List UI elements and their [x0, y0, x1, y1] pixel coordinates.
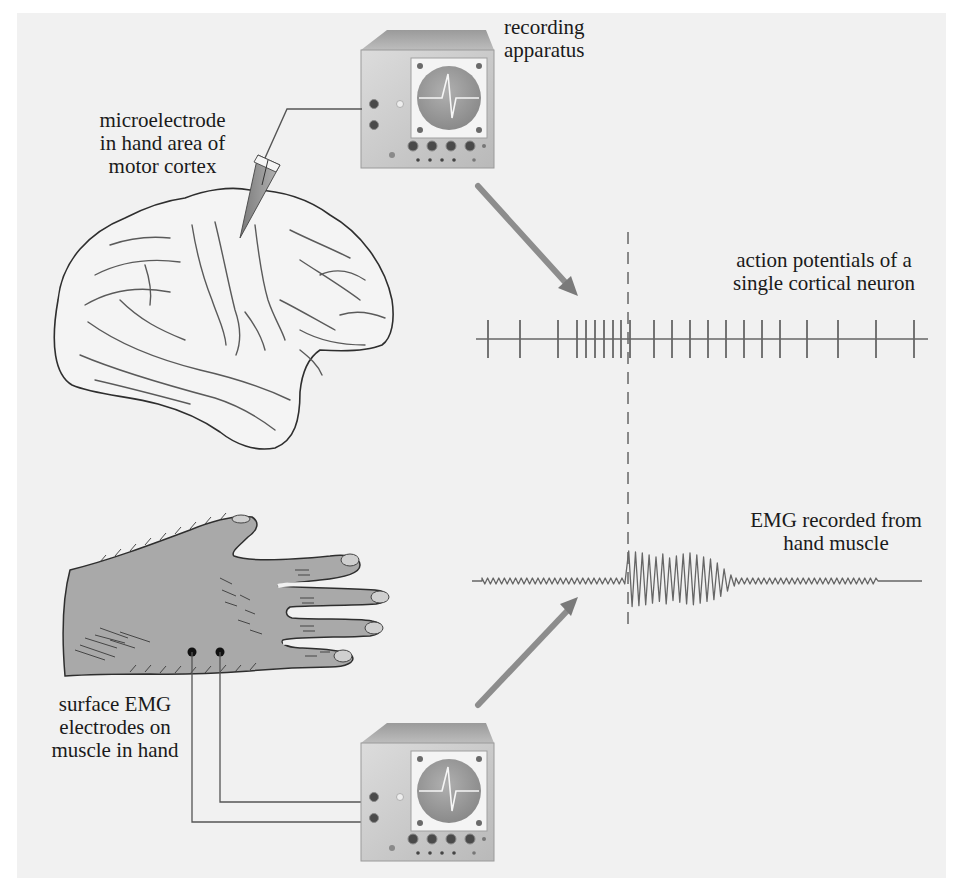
label-line: single cortical neuron [714, 272, 934, 295]
emg-trace [472, 551, 922, 607]
brain-illustration [54, 188, 393, 449]
label-line: surface EMG [40, 693, 190, 716]
label-microelectrode: microelectrode in hand area of motor cor… [80, 109, 245, 178]
emg-wire-1 [192, 652, 364, 822]
label-line: recording [504, 16, 584, 39]
recording-apparatus-top [361, 30, 494, 168]
action-potential-trace [476, 320, 928, 358]
label-line: in hand area of [80, 132, 245, 155]
arrow-apparatus-to-emg [478, 597, 578, 705]
label-line: apparatus [504, 39, 584, 62]
hand-illustration [63, 513, 389, 676]
label-surface-emg: surface EMG electrodes on muscle in hand [40, 693, 190, 762]
emg-wire-2 [220, 652, 364, 802]
label-line: action potentials of a [714, 249, 934, 272]
label-line: muscle in hand [40, 739, 190, 762]
label-line: hand muscle [736, 532, 936, 555]
label-emg-recorded: EMG recorded from hand muscle [736, 509, 936, 555]
label-action-potentials: action potentials of a single cortical n… [714, 249, 934, 295]
electrode-wire [265, 109, 362, 158]
label-line: microelectrode [80, 109, 245, 132]
label-line: electrodes on [40, 716, 190, 739]
label-recording-apparatus: recording apparatus [504, 16, 584, 62]
label-line: motor cortex [80, 155, 245, 178]
label-line: EMG recorded from [736, 509, 936, 532]
recording-apparatus-bottom [361, 723, 494, 861]
arrow-apparatus-to-spikes [478, 186, 578, 296]
